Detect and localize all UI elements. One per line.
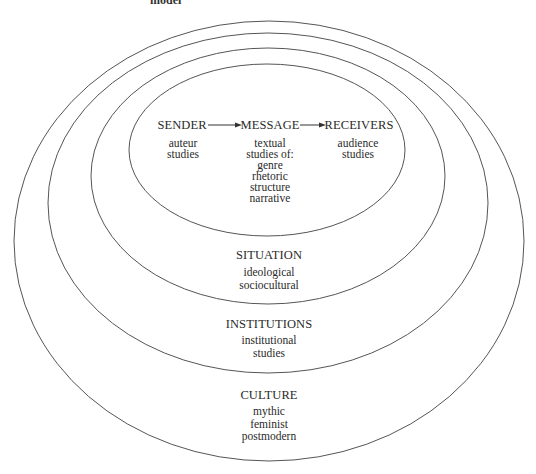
culture-item: postmodern — [242, 430, 296, 443]
sender-label: SENDER — [157, 119, 206, 132]
culture-items: mythic feminist postmodern — [242, 405, 296, 443]
institutions-label: INSTITUTIONS — [226, 318, 313, 331]
receivers-studies: audience studies — [338, 138, 379, 160]
arrow-message-to-receivers-icon — [300, 123, 326, 128]
situation-items: ideological sociocultural — [239, 266, 298, 291]
culture-item: mythic — [242, 405, 296, 418]
sender-study-line: studies — [167, 149, 199, 160]
receivers-label: RECEIVERS — [325, 119, 394, 132]
situation-item: ideological — [239, 266, 298, 279]
institutions-items: institutional studies — [242, 334, 297, 360]
arrow-sender-to-message-icon — [208, 123, 242, 128]
culture-label: CULTURE — [240, 389, 297, 402]
message-study-line: narrative — [246, 193, 294, 204]
message-studies: textual studies of: genre rhetoric struc… — [246, 138, 294, 204]
institutions-item: institutional — [242, 334, 297, 347]
culture-item: feminist — [242, 418, 296, 431]
nested-ellipses-diagram — [0, 0, 536, 474]
sender-studies: auteur studies — [167, 138, 199, 160]
message-label: MESSAGE — [240, 119, 299, 132]
institutions-item: studies — [242, 347, 297, 360]
receivers-study-line: studies — [338, 149, 379, 160]
situation-label: SITUATION — [236, 249, 302, 262]
situation-item: sociocultural — [239, 279, 298, 292]
